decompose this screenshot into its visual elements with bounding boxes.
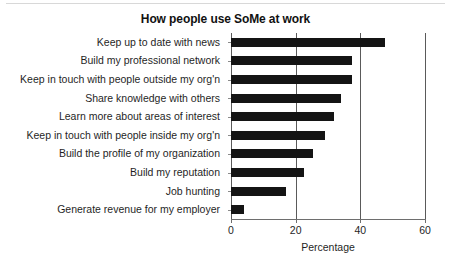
category-axis-labels: Keep up to date with newsBuild my profes…	[0, 33, 226, 219]
bar	[231, 75, 352, 84]
y-tick-mark	[228, 191, 231, 192]
category-label: Learn more about areas of interest	[0, 111, 220, 122]
category-label: Keep up to date with news	[0, 37, 220, 48]
chart-title: How people use SoMe at work	[0, 12, 451, 26]
y-tick-mark	[228, 210, 231, 211]
y-tick-mark	[228, 80, 231, 81]
tick-mark-60	[425, 219, 426, 223]
category-label: Job hunting	[0, 186, 220, 197]
x-tick-label: 0	[211, 224, 251, 236]
category-label: Share knowledge with others	[0, 93, 220, 104]
category-label: Generate revenue for my employer	[0, 204, 220, 215]
bar	[231, 56, 352, 65]
y-tick-mark	[228, 98, 231, 99]
y-tick-mark	[228, 61, 231, 62]
x-axis-line	[231, 219, 425, 220]
bar	[231, 112, 334, 121]
gridline-40	[360, 33, 361, 219]
bar	[231, 149, 313, 158]
bar	[231, 38, 385, 47]
category-label: Build my professional network	[0, 55, 220, 66]
x-tick-label: 40	[340, 224, 380, 236]
gridline-60	[425, 33, 426, 219]
y-tick-mark	[228, 135, 231, 136]
tick-mark-40	[360, 219, 361, 223]
category-label: Build my reputation	[0, 167, 220, 178]
y-tick-mark	[228, 42, 231, 43]
bar	[231, 168, 304, 177]
x-tick-label: 20	[276, 224, 316, 236]
x-axis-title: Percentage	[231, 241, 425, 253]
x-tick-label: 60	[405, 224, 445, 236]
tick-mark-20	[296, 219, 297, 223]
plot-area	[231, 33, 425, 219]
y-tick-mark	[228, 117, 231, 118]
y-tick-mark	[228, 173, 231, 174]
chart-figure: How people use SoMe at work Keep up to d…	[0, 0, 451, 274]
tick-mark-0	[231, 219, 232, 223]
category-label: Keep in touch with people inside my org'…	[0, 130, 220, 141]
y-tick-mark	[228, 154, 231, 155]
value-axis-labels: 0204060	[0, 224, 451, 238]
bar	[231, 131, 325, 140]
page-top-rule	[6, 3, 445, 4]
bar	[231, 94, 341, 103]
bar	[231, 187, 286, 196]
bar	[231, 205, 244, 214]
category-label: Build the profile of my organization	[0, 148, 220, 159]
category-label: Keep in touch with people outside my org…	[0, 74, 220, 85]
